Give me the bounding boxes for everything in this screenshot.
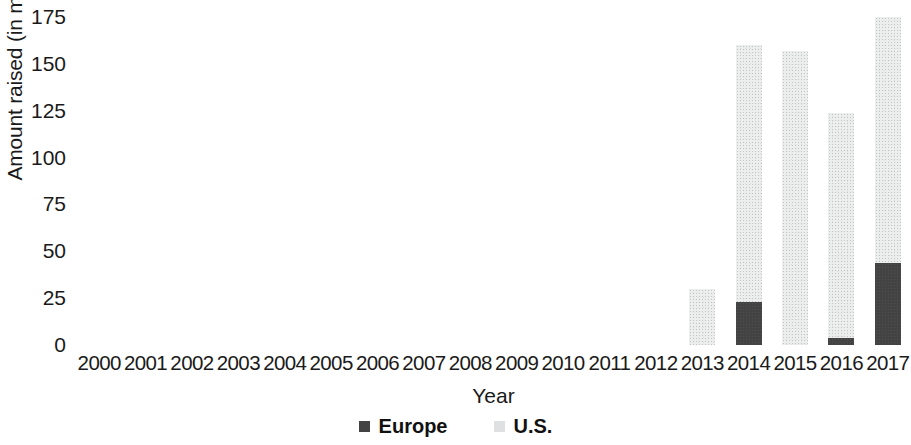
x-axis-tick-label: 2008: [447, 350, 493, 376]
legend-item-label: U.S.: [514, 414, 553, 438]
legend-item-europe[interactable]: Europe: [359, 414, 448, 438]
bar-segment-us: [736, 45, 762, 302]
x-axis-tick-label: 2011: [586, 350, 632, 376]
bar-2014[interactable]: [736, 45, 762, 345]
x-axis-tick-label: 2003: [215, 350, 261, 376]
legend-item-label: Europe: [379, 414, 448, 438]
bar-2016[interactable]: [828, 113, 854, 345]
bar-segment-europe: [875, 263, 901, 345]
x-axis-title: Year: [76, 382, 911, 409]
x-axis-tick-label: 2017: [865, 350, 911, 376]
x-axis-tick-label: 2016: [818, 350, 864, 376]
y-axis-tick-label: 25: [0, 287, 66, 308]
x-axis-tick-label: 2014: [725, 350, 771, 376]
x-axis-tick-label: 2001: [122, 350, 168, 376]
legend-item-us[interactable]: U.S.: [494, 414, 553, 438]
stacked-bar-chart: Amount raised (in million EUR) 025507510…: [0, 0, 911, 445]
y-axis-tick-label: 50: [0, 240, 66, 261]
x-axis-tick-label: 2007: [401, 350, 447, 376]
x-axis-tick-label: 2004: [262, 350, 308, 376]
y-axis-tick-labels: 0255075100125150175: [0, 0, 74, 360]
x-axis-tick-label: 2006: [354, 350, 400, 376]
bar-2015[interactable]: [782, 51, 808, 345]
x-axis-tick-label: 2005: [308, 350, 354, 376]
bar-segment-us: [782, 51, 808, 345]
x-axis-tick-labels: 2000200120022003200420052006200720082009…: [76, 350, 911, 378]
x-axis-tick-label: 2000: [76, 350, 122, 376]
x-axis-tick-label: 2002: [169, 350, 215, 376]
x-axis-tick-label: 2009: [494, 350, 540, 376]
y-axis-tick-label: 75: [0, 193, 66, 214]
y-axis-tick-label: 125: [0, 100, 66, 121]
y-axis-tick-label: 150: [0, 53, 66, 74]
bar-2013[interactable]: [689, 289, 715, 345]
dark-square-icon: [359, 421, 370, 432]
x-axis-tick-label: 2015: [772, 350, 818, 376]
bar-segment-us: [828, 113, 854, 338]
bar-segment-us: [689, 289, 715, 345]
x-axis-tick-label: 2012: [633, 350, 679, 376]
y-axis-tick-label: 100: [0, 147, 66, 168]
bar-segment-europe: [828, 338, 854, 345]
bar-segment-us: [875, 17, 901, 263]
x-axis-tick-label: 2013: [679, 350, 725, 376]
x-axis-tick-label: 2010: [540, 350, 586, 376]
light-square-icon: [494, 421, 505, 432]
chart-legend: Europe U.S.: [0, 414, 911, 438]
plot-area: [76, 0, 911, 346]
bar-2017[interactable]: [875, 17, 901, 345]
y-axis-tick-label: 0: [0, 334, 66, 355]
bar-segment-europe: [736, 302, 762, 345]
y-axis-tick-label: 175: [0, 6, 66, 27]
